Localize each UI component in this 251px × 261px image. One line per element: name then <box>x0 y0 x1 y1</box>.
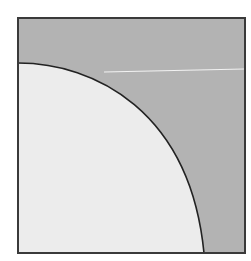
quarter-circle-diagram <box>0 0 251 261</box>
